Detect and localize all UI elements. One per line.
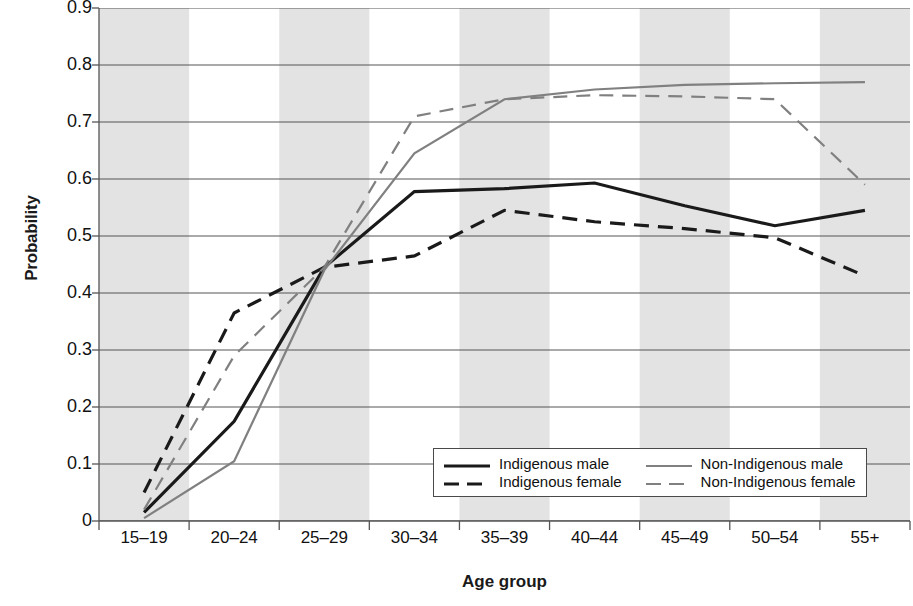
x-tick-label: 40–44 (550, 528, 640, 548)
age-band (820, 8, 910, 521)
legend-entry: Indigenous female (444, 474, 622, 489)
y-tick-label: 0.1 (46, 454, 92, 472)
legend-label: Non-Indigenous male (701, 456, 844, 471)
y-tick-label: 0 (46, 511, 92, 529)
y-tick-label: 0.2 (46, 397, 92, 415)
y-tick-label: 0.5 (46, 226, 92, 244)
x-tick-label: 15–19 (99, 528, 189, 548)
y-tick-label: 0.8 (46, 55, 92, 73)
x-tick-label: 55+ (820, 528, 910, 548)
x-axis-title: Age group (99, 572, 910, 592)
y-axis-title: Probability (22, 148, 42, 328)
legend-label: Indigenous female (499, 474, 622, 489)
legend-line-swatch (444, 476, 490, 488)
y-tick-label: 0.3 (46, 340, 92, 358)
probability-by-age-group-chart: Probability 00.10.20.30.40.50.60.70.80.9… (0, 0, 913, 606)
age-band (99, 8, 189, 521)
x-tick-label: 20–24 (189, 528, 279, 548)
legend-label: Non-Indigenous female (701, 474, 856, 489)
alternating-background-bands (99, 8, 910, 521)
legend-entry: Non-Indigenous female (646, 474, 856, 489)
x-tick-label: 25–29 (279, 528, 369, 548)
y-axis-tick-labels: 00.10.20.30.40.50.60.70.80.9 (40, 0, 92, 540)
legend-line-swatch (444, 458, 490, 470)
y-tick-label: 0.4 (46, 283, 92, 301)
x-tick-label: 50–54 (730, 528, 820, 548)
legend-label: Indigenous male (499, 456, 609, 471)
y-tick-label: 0.6 (46, 169, 92, 187)
chart-legend: Indigenous maleNon-Indigenous maleIndige… (433, 448, 867, 497)
y-tick-label: 0.9 (46, 0, 92, 16)
x-tick-label: 30–34 (369, 528, 459, 548)
age-band (279, 8, 369, 521)
legend-entry: Indigenous male (444, 456, 622, 471)
legend-entries: Indigenous maleNon-Indigenous maleIndige… (444, 456, 856, 489)
x-axis-tick-labels: 15–1920–2425–2930–3435–3940–4445–4950–54… (99, 528, 910, 558)
plot-svg (99, 8, 910, 521)
legend-line-swatch (646, 476, 692, 488)
age-band (459, 8, 549, 521)
legend-entry: Non-Indigenous male (646, 456, 856, 471)
legend-line-swatch (646, 458, 692, 470)
y-tick-label: 0.7 (46, 112, 92, 130)
plot-area (99, 8, 910, 521)
x-tick-label: 45–49 (640, 528, 730, 548)
x-tick-label: 35–39 (459, 528, 549, 548)
